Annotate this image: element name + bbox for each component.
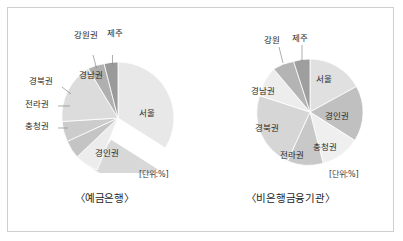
pie-label-gyeongbuk: 경북권: [255, 124, 278, 133]
caption-nonbank: 〈비은행금융기관〉: [194, 190, 387, 205]
pie-label-jeolla: 전라권: [280, 151, 303, 160]
unit-note-deposit-bank: [단위:%]: [139, 168, 168, 179]
pie-label-seoul: 서울: [316, 75, 332, 84]
pie-label-chungcheong: 충청권: [25, 122, 48, 131]
pie-slice-seoul: [118, 62, 174, 148]
pie-label-gyeongbuk: 경북권: [29, 77, 52, 86]
pie-chart-deposit-bank: 서울 경인권 경남권 강원권 제주 경북권 전라권 충청권: [8, 8, 201, 173]
pie-label-gyeongin: 경인권: [325, 112, 348, 121]
pie-label-gyeongnam: 경남권: [251, 87, 274, 96]
pie-label-gyeongnam: 경남권: [79, 71, 102, 80]
pie-label-seoul: 서울: [139, 109, 155, 118]
caption-deposit-bank: 〈예금은행〉: [8, 190, 201, 205]
figure-root: 서울 경인권 경남권 강원권 제주 경북권 전라권 충청권: [0, 0, 403, 241]
pie-label-chungcheong: 충청권: [313, 143, 336, 152]
pie-label-gangwon: 강원: [264, 36, 280, 45]
leader-line-gangwon: [279, 47, 283, 63]
chart-panel-deposit-bank: 서울 경인권 경남권 강원권 제주 경북권 전라권 충청권: [8, 8, 201, 217]
unit-note-nonbank: [단위:%]: [329, 168, 358, 179]
pie-label-gyeongin: 경인권: [95, 149, 118, 158]
pie-label-gangwon: 강원권: [74, 31, 97, 40]
pie-chart-nonbank: 서울 경인권 충청권 전라권 경북권 경남권 강원 제주: [194, 8, 387, 173]
pie-label-jeju: 제주: [292, 34, 308, 43]
pie-label-jeolla: 전라권: [25, 100, 48, 109]
pie-svg-nonbank: [194, 8, 387, 173]
chart-panel-nonbank: 서울 경인권 충청권 전라권 경북권 경남권 강원 제주: [194, 8, 387, 217]
pie-label-jeju: 제주: [107, 29, 123, 38]
